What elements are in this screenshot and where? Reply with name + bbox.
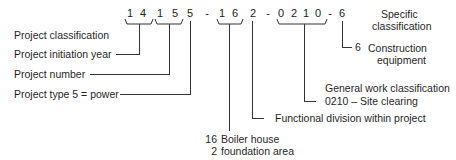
connector-line	[342, 21, 343, 48]
project-code-diagram: 1 4 1 5 5 - 1 6 2 - 0 2 1 0 - 6	[0, 0, 456, 160]
label-foundation-area: foundation area	[221, 145, 294, 158]
label-construction-equipment-code: 6	[355, 41, 361, 54]
label-functional-division: Functional division within project	[275, 112, 426, 125]
connector-line	[139, 24, 140, 55]
label-foundation-code: 2	[205, 145, 217, 158]
connector-line	[342, 47, 352, 48]
connector-line	[190, 21, 191, 95]
connector-line	[229, 24, 230, 131]
label-project-initiation-year: Project initiation year	[14, 48, 111, 61]
connector-line	[252, 118, 264, 119]
connector-line	[304, 101, 316, 102]
connector-line	[252, 21, 253, 119]
connector-line	[169, 24, 170, 75]
connector-line	[304, 24, 305, 102]
brace-0210	[277, 19, 327, 24]
connector-line	[90, 74, 170, 75]
connector-line	[120, 94, 191, 95]
label-specific-classification: classification	[372, 20, 432, 33]
brace-16	[217, 19, 243, 24]
connector-line	[116, 54, 140, 55]
label-project-number: Project number	[14, 68, 85, 81]
label-project-classification: Project classification	[14, 29, 109, 42]
label-construction-equipment: equipment	[377, 54, 426, 67]
label-project-type: Project type 5 = power	[14, 88, 119, 101]
label-general-work-classification: General work classification	[325, 82, 450, 95]
label-site-clearing: 0210 – Site clearing	[325, 95, 418, 108]
